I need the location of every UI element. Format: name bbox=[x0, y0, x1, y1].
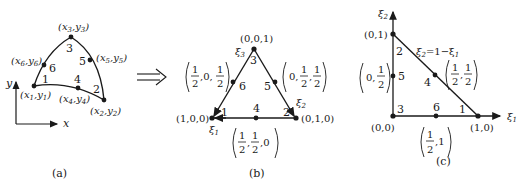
node-number-c-4: 4 bbox=[424, 76, 431, 89]
vertex-10 bbox=[475, 113, 480, 118]
vertex-label-001: (0,0,1) bbox=[240, 33, 273, 44]
vertex-label-100: (1,0,0) bbox=[176, 113, 209, 124]
node-number-2: 2 bbox=[93, 83, 100, 96]
xi2-label: ξ2 bbox=[296, 97, 307, 110]
node-number-b-2: 2 bbox=[283, 106, 290, 119]
vertex-label-00: (0,0) bbox=[371, 122, 395, 133]
coord-label-5: (x5,y5) bbox=[96, 52, 127, 65]
svg-text:1: 1 bbox=[192, 64, 198, 75]
vertex-label-10: (1,0) bbox=[470, 122, 494, 133]
svg-text:0,: 0, bbox=[366, 72, 376, 83]
node-number-c-2: 2 bbox=[396, 45, 403, 58]
node-number-c-1: 1 bbox=[459, 103, 466, 116]
node-4 bbox=[76, 86, 81, 91]
vertex-1 bbox=[209, 115, 214, 120]
node-number-4: 4 bbox=[74, 73, 81, 86]
svg-text:,: , bbox=[460, 69, 463, 80]
svg-text:2: 2 bbox=[301, 78, 307, 89]
panel-b: (0,0,1) (1,0,0) (0,1,0) ξ3 ξ2 ξ1 3 6 5 1… bbox=[176, 33, 334, 180]
node-1 bbox=[32, 84, 37, 89]
svg-text:0,: 0, bbox=[289, 71, 299, 82]
caption-a: (a) bbox=[52, 167, 67, 180]
hypotenuse-equation: ξ2=1−ξ1 bbox=[416, 46, 459, 59]
node-number-b-3: 3 bbox=[250, 54, 257, 67]
midpoint-label-c-4: 1 2 , 1 2 bbox=[446, 60, 477, 90]
midpoint-label-c-5: 0, 1 2 bbox=[360, 63, 390, 93]
caption-c: (c) bbox=[436, 155, 451, 168]
svg-text:,0: ,0 bbox=[260, 137, 270, 148]
vertex-01 bbox=[390, 31, 395, 36]
svg-text:,: , bbox=[247, 137, 250, 148]
node-number-c-3: 3 bbox=[397, 103, 404, 116]
node-number-c-6: 6 bbox=[433, 101, 440, 114]
vertex-label-010: (0,1,0) bbox=[301, 113, 334, 124]
panel-a: y x 1 2 3 4 5 6 (x3,y3) (x6,y6) (x5,y5) … bbox=[5, 21, 127, 180]
svg-text:2: 2 bbox=[452, 76, 458, 87]
figure-canvas: y x 1 2 3 4 5 6 (x3,y3) (x6,y6) (x5,y5) … bbox=[0, 0, 525, 185]
node-3 bbox=[69, 35, 74, 40]
node-number-c-5: 5 bbox=[398, 70, 405, 83]
svg-text:1: 1 bbox=[314, 64, 320, 75]
svg-text:2: 2 bbox=[427, 144, 433, 155]
xi2-axis-label: ξ2 bbox=[378, 8, 389, 21]
node-number-b-4: 4 bbox=[253, 102, 260, 115]
node-number-b-5: 5 bbox=[264, 80, 271, 93]
node-number-3: 3 bbox=[66, 42, 73, 55]
y-axis-label: y bbox=[5, 77, 13, 90]
svg-text:,1: ,1 bbox=[435, 136, 445, 147]
svg-text:1: 1 bbox=[452, 62, 458, 73]
svg-text:1: 1 bbox=[301, 64, 307, 75]
node-number-b-1: 1 bbox=[221, 106, 228, 119]
midpoint-label-c-6: 1 2 ,1 bbox=[421, 127, 451, 157]
node-number-b-6: 6 bbox=[239, 80, 246, 93]
midnode-c-6 bbox=[434, 114, 439, 119]
svg-text:1: 1 bbox=[427, 129, 433, 140]
coord-label-2: (x2,y2) bbox=[90, 105, 121, 118]
svg-text:2: 2 bbox=[252, 144, 258, 155]
caption-b: (b) bbox=[249, 167, 265, 180]
coord-label-6: (x6,y6) bbox=[11, 55, 42, 68]
midnode-5 bbox=[273, 80, 278, 85]
midpoint-label-4: 1 2 , 1 2 ,0 bbox=[233, 128, 278, 158]
node-number-5: 5 bbox=[79, 55, 86, 68]
svg-text:1: 1 bbox=[378, 64, 384, 75]
svg-text:,: , bbox=[309, 71, 312, 82]
node-6 bbox=[42, 63, 47, 68]
node-number-1: 1 bbox=[42, 73, 49, 86]
panel-c: ξ2 ξ1 (0,1) (0,0) (1,0) ξ2=1−ξ1 2 5 4 3 … bbox=[360, 8, 517, 168]
midpoint-label-5: 0, 1 2 , 1 2 bbox=[283, 62, 326, 92]
xi1-axis-label: ξ1 bbox=[507, 111, 517, 124]
x-axis-label: x bbox=[63, 117, 70, 130]
svg-text:2: 2 bbox=[314, 78, 320, 89]
svg-text:2: 2 bbox=[465, 76, 471, 87]
midnode-c-4 bbox=[433, 73, 438, 78]
svg-text:1: 1 bbox=[217, 64, 223, 75]
svg-text:,0,: ,0, bbox=[200, 71, 213, 82]
midnode-4 bbox=[254, 116, 259, 121]
node-5 bbox=[88, 58, 93, 63]
svg-text:2: 2 bbox=[217, 78, 223, 89]
coord-label-3: (x3,y3) bbox=[58, 21, 89, 34]
node-2 bbox=[102, 98, 107, 103]
svg-text:2: 2 bbox=[192, 78, 198, 89]
coord-label-1: (x1,y1) bbox=[20, 89, 51, 102]
vertex-00 bbox=[390, 113, 395, 118]
xi3-label: ξ3 bbox=[235, 46, 246, 59]
vertex-2 bbox=[293, 115, 298, 120]
midpoint-label-6: 1 2 ,0, 1 2 bbox=[186, 62, 229, 92]
coord-label-4: (x4,y4) bbox=[59, 93, 90, 106]
vertex-label-01: (0,1) bbox=[364, 29, 388, 40]
midnode-c-5 bbox=[391, 74, 396, 79]
mapping-arrow bbox=[137, 69, 166, 85]
xi1-label: ξ1 bbox=[209, 124, 219, 137]
svg-text:2: 2 bbox=[239, 144, 245, 155]
svg-text:2: 2 bbox=[378, 79, 384, 90]
midnode-6 bbox=[231, 80, 236, 85]
vertex-3 bbox=[251, 46, 256, 51]
svg-text:1: 1 bbox=[239, 130, 245, 141]
svg-text:1: 1 bbox=[465, 62, 471, 73]
node-number-6: 6 bbox=[49, 62, 56, 75]
svg-text:1: 1 bbox=[252, 130, 258, 141]
